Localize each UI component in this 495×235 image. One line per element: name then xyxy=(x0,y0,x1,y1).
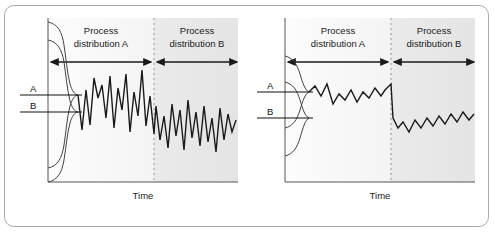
level-a-label: A xyxy=(267,80,274,91)
phase-b-label-line2: distribution B xyxy=(407,38,462,49)
level-b-label: B xyxy=(267,106,273,117)
high-variation-panel: Process distribution A Process distribut… xyxy=(6,0,246,220)
phase-a-label-line1: Process xyxy=(84,25,119,36)
level-a-label: A xyxy=(30,83,37,94)
x-axis-label: Time xyxy=(370,190,391,201)
low-variation-panel: Process distribution A Process distribut… xyxy=(243,0,483,220)
phase-a-label-line1: Process xyxy=(321,25,356,36)
phase-b-label-line1: Process xyxy=(417,25,452,36)
phase-a-label-line2: distribution A xyxy=(311,38,366,49)
figure-root: Process distribution A Process distribut… xyxy=(0,0,495,235)
phase-a-label-line2: distribution A xyxy=(74,38,129,49)
x-axis-label: Time xyxy=(133,190,154,201)
phase-b-label-line2: distribution B xyxy=(170,38,225,49)
level-b-label: B xyxy=(30,100,36,111)
phase-b-label-line1: Process xyxy=(180,25,215,36)
